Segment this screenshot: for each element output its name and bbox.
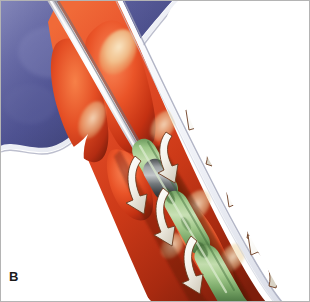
medical-illustration <box>0 0 310 302</box>
figure-panel: B <box>0 0 310 302</box>
panel-label: B <box>9 270 18 283</box>
vessel-blue-highlight-2 <box>4 84 56 124</box>
